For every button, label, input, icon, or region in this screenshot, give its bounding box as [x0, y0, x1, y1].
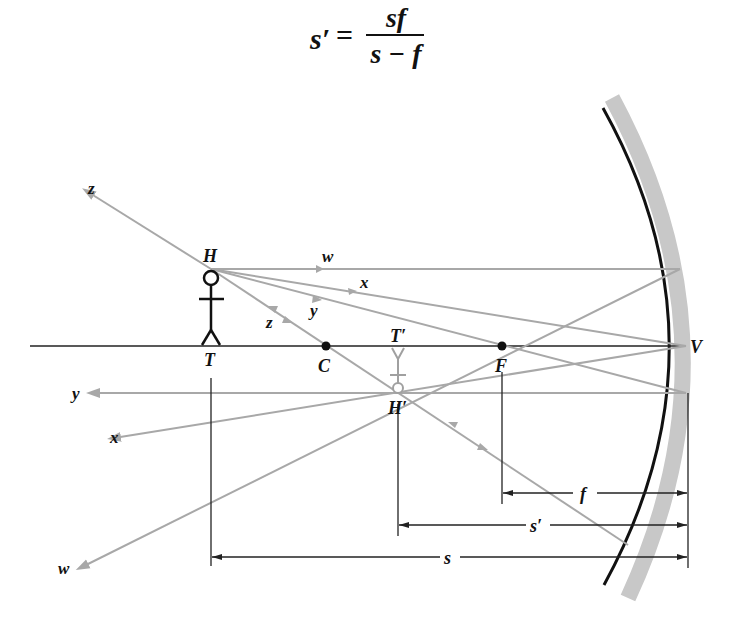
label-image-head: H′	[387, 398, 407, 418]
label-ray-x-in: x	[359, 273, 369, 292]
label-ray-y-out: y	[70, 384, 80, 403]
focal-point-dot	[498, 342, 507, 351]
rays	[82, 192, 686, 567]
optics-figure: s′ = sf s − f	[0, 0, 734, 627]
center-of-curvature-dot	[322, 342, 331, 351]
label-ray-x-out: x	[109, 428, 119, 447]
label-ray-y-in: y	[308, 301, 318, 320]
label-ray-z-out: z	[87, 179, 95, 198]
object-figure	[199, 271, 224, 345]
extension-lines	[211, 372, 688, 568]
label-ray-z-in: z	[265, 313, 273, 332]
label-ray-w-out: w	[58, 559, 70, 578]
label-focal-point: F	[494, 356, 507, 376]
ray-diagram: H T C F V T′ H′ w x y z z y x w f s′ s	[0, 0, 734, 627]
label-center-of-curvature: C	[318, 356, 331, 376]
label-ray-w-in: w	[322, 247, 334, 266]
label-object-distance: s	[443, 548, 451, 568]
label-image-foot: T′	[390, 326, 406, 346]
label-image-distance: s′	[529, 516, 542, 536]
label-object-foot: T	[204, 350, 216, 370]
label-vertex: V	[690, 337, 704, 357]
label-focal-length: f	[580, 484, 588, 504]
image-figure	[390, 348, 406, 393]
label-object-head: H	[202, 246, 218, 266]
